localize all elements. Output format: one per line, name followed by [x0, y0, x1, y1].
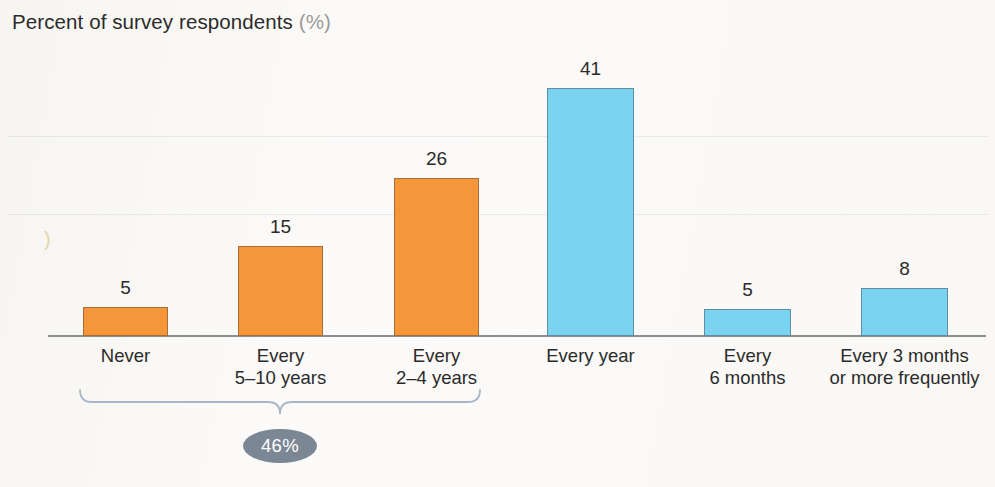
bar-every-year[interactable] — [547, 88, 634, 336]
category-label-never-line-1: Never — [55, 345, 196, 367]
gridline-upper — [8, 136, 988, 137]
bar-every-3-months-or-more[interactable] — [861, 288, 948, 336]
bar-value-every-year: 41 — [547, 58, 634, 80]
plot-area: ) 5 Never 15 Every 5–10 years 26 Every 2… — [0, 0, 995, 487]
category-label-never: Never — [55, 345, 196, 367]
bar-value-every-2-4-years: 26 — [394, 148, 479, 170]
x-axis-line — [48, 335, 986, 337]
bar-value-every-5-10-years: 15 — [238, 216, 323, 238]
category-label-every-2-4-years: Every 2–4 years — [366, 345, 507, 389]
gridline-lower — [8, 214, 988, 215]
bar-never[interactable] — [83, 307, 168, 336]
group-total-callout: 46% — [243, 429, 317, 463]
category-label-every-5-10-years-line-1: Every — [210, 345, 351, 367]
category-label-every-6-months: Every 6 months — [677, 345, 818, 389]
scan-artifact: ) — [44, 228, 53, 250]
group-total-callout-label: 46% — [261, 435, 299, 457]
category-label-every-year: Every year — [520, 345, 661, 367]
category-label-every-year-line-1: Every year — [520, 345, 661, 367]
group-brace-icon — [60, 386, 500, 422]
bar-every-2-4-years[interactable] — [394, 178, 479, 336]
category-label-every-5-10-years: Every 5–10 years — [210, 345, 351, 389]
category-label-every-6-months-line-2: 6 months — [677, 367, 818, 389]
category-label-every-3-months-or-more: Every 3 months or more frequently — [814, 345, 995, 389]
category-label-every-2-4-years-line-1: Every — [366, 345, 507, 367]
bar-value-every-3-months-or-more: 8 — [861, 258, 948, 280]
category-label-every-3-months-or-more-line-1: Every 3 months — [814, 345, 995, 367]
category-label-every-6-months-line-1: Every — [677, 345, 818, 367]
bar-every-6-months[interactable] — [704, 309, 791, 336]
category-label-every-3-months-or-more-line-2: or more frequently — [814, 367, 995, 389]
bar-every-5-10-years[interactable] — [238, 246, 323, 336]
bar-value-never: 5 — [83, 277, 168, 299]
bar-value-every-6-months: 5 — [704, 279, 791, 301]
bar-chart: Percent of survey respondents (%) ) 5 Ne… — [0, 0, 995, 487]
